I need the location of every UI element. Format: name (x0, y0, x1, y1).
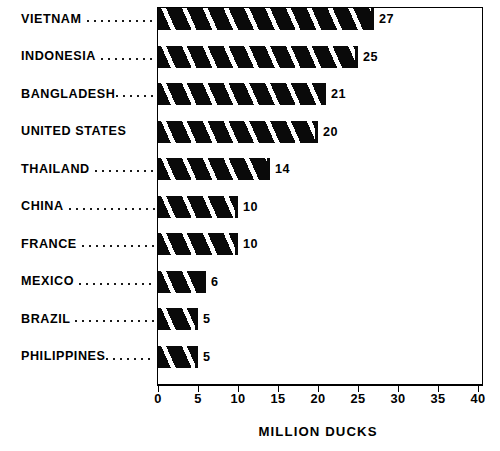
x-tick-label: 40 (471, 393, 486, 406)
x-tick-label: 20 (311, 393, 326, 406)
bar-france (158, 233, 238, 255)
x-tick-label: 25 (351, 393, 366, 406)
x-tick-label: 0 (154, 393, 161, 406)
bar-philippines (158, 346, 198, 368)
x-tick-label: 30 (391, 393, 406, 406)
dot-leader (69, 201, 155, 213)
category-name: BANGLADESH (21, 88, 115, 101)
dot-leader (106, 351, 155, 363)
category-name: CHINA (21, 200, 64, 213)
x-axis-line (157, 384, 483, 385)
bar-value-label: 27 (374, 8, 394, 30)
dot-leader (87, 13, 155, 25)
category-name: THAILAND (21, 163, 90, 176)
category-name: BRAZIL (21, 313, 70, 326)
x-tick-label: 10 (231, 393, 246, 406)
dot-leader (75, 313, 155, 325)
dot-leader (131, 126, 155, 138)
bar-value-label: 14 (270, 158, 290, 180)
bar-value-label: 21 (326, 83, 346, 105)
bar-bangladesh (158, 83, 326, 105)
dot-leader (101, 51, 155, 63)
category-name: MEXICO (21, 275, 74, 288)
category-name: INDONESIA (21, 50, 96, 63)
category-label-column: VIETNAM INDONESIA BANGLADESH UNITED STAT… (0, 0, 157, 386)
x-tick-label: 15 (271, 393, 286, 406)
duck-population-bar-chart: VIETNAM INDONESIA BANGLADESH UNITED STAT… (0, 0, 500, 451)
category-label-vietnam: VIETNAM (21, 8, 155, 30)
dot-leader (95, 163, 155, 175)
bar-value-label: 6 (206, 271, 218, 293)
bar-indonesia (158, 46, 358, 68)
dot-leader (116, 88, 155, 100)
category-name: UNITED STATES (21, 125, 126, 138)
x-axis-title: MILLION DUCKS (158, 424, 478, 439)
category-label-thailand: THAILAND (21, 158, 155, 180)
bar-value-label: 10 (238, 233, 258, 255)
category-name: PHILIPPINES (21, 350, 105, 363)
dot-leader (82, 238, 155, 250)
category-label-france: FRANCE (21, 233, 155, 255)
category-label-china: CHINA (21, 196, 155, 218)
dot-leader (79, 276, 155, 288)
bar-vietnam (158, 8, 374, 30)
category-label-indonesia: INDONESIA (21, 46, 155, 68)
x-tick-label: 5 (194, 393, 201, 406)
category-name: VIETNAM (21, 13, 82, 26)
category-label-mexico: MEXICO (21, 271, 155, 293)
bar-mexico (158, 271, 206, 293)
category-label-bangladesh: BANGLADESH (21, 83, 155, 105)
bars-layer: 27 25 21 20 14 10 10 6 (158, 7, 483, 385)
bar-value-label: 10 (238, 196, 258, 218)
category-name: FRANCE (21, 238, 77, 251)
category-label-united-states: UNITED STATES (21, 121, 155, 143)
bar-brazil (158, 308, 198, 330)
bar-thailand (158, 158, 270, 180)
bar-china (158, 196, 238, 218)
bar-value-label: 25 (358, 46, 378, 68)
bar-value-label: 5 (198, 346, 210, 368)
bar-united-states (158, 121, 318, 143)
category-label-brazil: BRAZIL (21, 308, 155, 330)
bar-value-label: 5 (198, 308, 210, 330)
bar-value-label: 20 (318, 121, 338, 143)
category-label-philippines: PHILIPPINES (21, 346, 155, 368)
x-tick-label: 35 (431, 393, 446, 406)
